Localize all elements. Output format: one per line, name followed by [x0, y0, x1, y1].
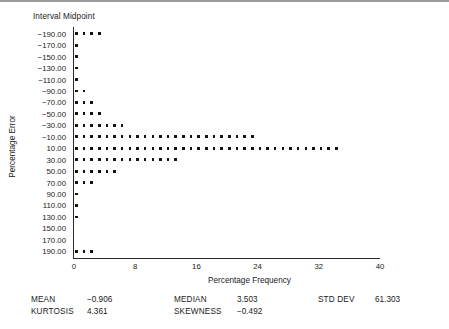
data-dot	[90, 124, 93, 127]
data-dot	[335, 147, 338, 150]
y-axis-tick-label: 150.00	[42, 224, 66, 233]
data-dot	[259, 147, 262, 150]
data-dot	[83, 135, 86, 138]
dot-row	[74, 135, 380, 138]
data-dot	[136, 135, 139, 138]
data-dot	[83, 90, 86, 93]
data-dot	[83, 112, 86, 115]
stat-kurtosis-value: 4.361	[87, 307, 108, 316]
stat-mean-value: −0.906	[87, 295, 112, 304]
data-dot	[90, 135, 93, 138]
data-dot	[83, 124, 86, 127]
data-dot	[83, 147, 86, 150]
dot-row	[74, 216, 380, 219]
dot-row	[74, 238, 380, 241]
y-axis-tick-label: −70.00	[42, 98, 66, 107]
data-dot	[75, 55, 78, 58]
dot-row	[74, 181, 380, 184]
data-dot	[83, 170, 86, 173]
data-dot	[90, 101, 93, 104]
data-dot	[174, 147, 177, 150]
data-dot	[83, 101, 86, 104]
data-dot	[159, 135, 162, 138]
data-dot	[228, 135, 231, 138]
data-dot	[75, 67, 78, 70]
data-dot	[152, 147, 155, 150]
y-axis-tick-label: 110.00	[43, 201, 66, 210]
x-axis-tick-label: 0	[72, 262, 76, 271]
data-dot	[106, 135, 109, 138]
data-dot	[106, 158, 109, 161]
data-dot	[152, 158, 155, 161]
x-axis-tick-label: 8	[133, 262, 137, 271]
stat-stddev-value: 61.303	[375, 295, 400, 304]
y-axis-tick-label: −190.00	[38, 29, 66, 38]
data-dot	[75, 204, 78, 207]
data-dot	[197, 147, 200, 150]
data-dot	[106, 170, 109, 173]
data-dot	[113, 170, 116, 173]
dot-row	[74, 32, 380, 35]
data-dot	[98, 147, 101, 150]
dot-row	[74, 170, 380, 173]
data-dot	[213, 147, 216, 150]
data-dot	[305, 147, 308, 150]
data-dot	[106, 147, 109, 150]
y-axis-tick-labels: −190.00−170.00−150.00−130.00−110.00−90.0…	[0, 28, 70, 257]
data-dot	[228, 147, 231, 150]
y-axis-tick-label: −10.00	[42, 132, 66, 141]
data-dot	[182, 147, 185, 150]
data-dot	[129, 147, 132, 150]
data-dot	[167, 158, 170, 161]
data-dot	[174, 158, 177, 161]
data-dot	[174, 135, 177, 138]
data-dot	[121, 147, 124, 150]
dot-row	[74, 55, 380, 58]
data-dot	[113, 158, 116, 161]
data-dot	[98, 170, 101, 173]
data-dot	[90, 32, 93, 35]
data-dot	[75, 158, 78, 161]
data-dot	[75, 147, 78, 150]
stat-stddev-label: STD DEV	[318, 295, 355, 304]
data-dot	[251, 147, 254, 150]
data-dot	[205, 147, 208, 150]
data-dot	[220, 147, 223, 150]
x-axis-tick-labels: 0816243240	[0, 262, 449, 276]
dot-row	[74, 90, 380, 93]
data-dot	[144, 135, 147, 138]
data-dot	[98, 112, 101, 115]
data-dot	[327, 147, 330, 150]
data-dot	[159, 147, 162, 150]
data-dot	[243, 147, 246, 150]
y-axis-tick-label: 70.00	[46, 178, 66, 187]
data-dot	[90, 170, 93, 173]
data-dot	[106, 124, 109, 127]
dot-row	[74, 67, 380, 70]
x-axis-tick-label: 32	[314, 262, 323, 271]
dot-row	[74, 112, 380, 115]
data-dot	[75, 78, 78, 81]
x-axis-title-text: Percentage Frequency	[208, 276, 291, 285]
data-dot	[121, 158, 124, 161]
dot-row	[74, 147, 380, 150]
y-axis-tick-label: 170.00	[42, 235, 66, 244]
data-dot	[129, 158, 132, 161]
data-dot	[75, 193, 78, 196]
data-dot	[90, 147, 93, 150]
data-dot	[90, 158, 93, 161]
data-dot	[75, 90, 78, 93]
data-dot	[220, 135, 223, 138]
data-dot	[83, 32, 86, 35]
data-dot	[167, 135, 170, 138]
data-dot	[205, 135, 208, 138]
dot-row	[74, 78, 380, 81]
data-dot	[75, 250, 78, 253]
stat-skewness-label: SKEWNESS	[174, 307, 222, 316]
data-dot	[83, 181, 86, 184]
data-dot	[98, 135, 101, 138]
data-dot	[75, 32, 78, 35]
dot-row	[74, 193, 380, 196]
data-dot	[98, 32, 101, 35]
y-axis-tick-label: −30.00	[42, 121, 66, 130]
